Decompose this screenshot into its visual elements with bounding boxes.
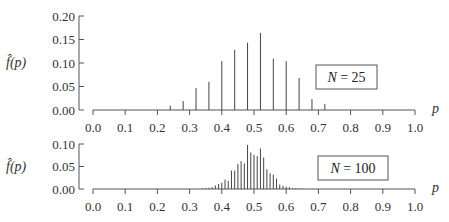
- x-tick-label: 1.0: [407, 120, 423, 135]
- x-tick-label: 0.4: [214, 199, 231, 214]
- chart-panel-n25: 0.000.050.100.150.20f̂(p)0.00.10.20.30.4…: [6, 9, 439, 136]
- x-tick-label: 0.6: [278, 120, 295, 135]
- y-tick-label: 0.10: [52, 56, 75, 71]
- x-tick-label: 0.1: [117, 120, 133, 135]
- x-tick-label: 0.8: [342, 199, 358, 214]
- y-tick-label: 0.00: [52, 182, 75, 197]
- x-tick-label: 0.6: [278, 199, 295, 214]
- x-tick-label: 0.7: [310, 120, 327, 135]
- x-tick-label: 0.8: [342, 120, 358, 135]
- x-tick-label: 0.5: [246, 199, 262, 214]
- chart-panel-n100: 0.000.050.10f̂(p)0.00.10.20.30.40.50.60.…: [6, 137, 439, 215]
- x-axis-label: p: [431, 101, 439, 116]
- y-axis-label: f̂(p): [6, 158, 27, 175]
- y-tick-label: 0.05: [52, 79, 75, 94]
- chart-figure: 0.000.050.100.150.20f̂(p)0.00.10.20.30.4…: [0, 0, 449, 222]
- x-tick-label: 0.4: [214, 120, 231, 135]
- y-axis-label: f̂(p): [6, 54, 27, 71]
- y-tick-label: 0.05: [52, 159, 75, 174]
- y-tick-label: 0.15: [52, 32, 75, 47]
- y-tick-label: 0.20: [52, 9, 75, 24]
- x-tick-label: 0.9: [375, 199, 391, 214]
- y-tick-label: 0.10: [52, 137, 75, 152]
- x-tick-label: 0.3: [181, 120, 197, 135]
- x-tick-label: 0.0: [85, 120, 101, 135]
- x-tick-label: 0.0: [85, 199, 101, 214]
- x-axis-label: p: [431, 180, 439, 195]
- x-tick-label: 0.1: [117, 199, 133, 214]
- x-tick-label: 0.7: [310, 199, 327, 214]
- x-tick-label: 0.3: [181, 199, 197, 214]
- x-tick-label: 0.5: [246, 120, 262, 135]
- legend-label: N = 100: [329, 161, 375, 176]
- y-tick-label: 0.00: [52, 103, 75, 118]
- x-tick-label: 0.2: [149, 199, 165, 214]
- x-tick-label: 0.9: [375, 120, 391, 135]
- x-tick-label: 1.0: [407, 199, 423, 214]
- legend-label: N = 25: [326, 70, 365, 85]
- x-tick-label: 0.2: [149, 120, 165, 135]
